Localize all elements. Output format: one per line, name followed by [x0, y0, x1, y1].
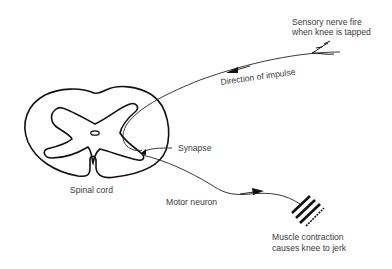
grey-matter-outline	[44, 104, 143, 163]
central-canal	[91, 131, 99, 135]
spinal-cord-label: Spinal cord	[70, 185, 113, 195]
spinal-cord-outline	[25, 87, 169, 178]
direction-arrow-icon	[226, 66, 250, 73]
muscle-label-line2: causes knee to jerk	[272, 243, 347, 253]
sensory-label-line1: Sensory nerve fire	[292, 17, 362, 27]
synapse-label: Synapse	[178, 143, 212, 153]
sensory-nerve-fiber	[123, 52, 340, 151]
muscle-label-line1: Muscle contraction	[272, 232, 344, 242]
muscle-fibers-icon	[292, 196, 324, 226]
sensory-label-line2: when knee is tapped	[291, 27, 371, 37]
motor-neuron-label: Motor neuron	[166, 197, 217, 207]
reflex-arc-diagram: Sensory nerve fire when knee is tapped D…	[0, 0, 392, 269]
synapse-pointer	[143, 148, 172, 152]
